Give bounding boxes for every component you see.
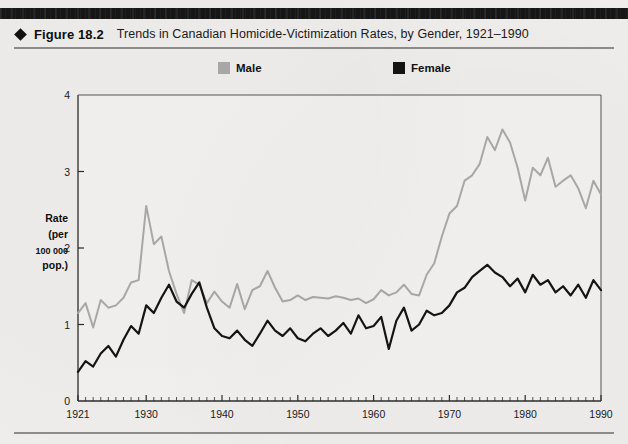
x-tick-label: 1960: [362, 408, 386, 420]
figure-divider-bottom: [14, 432, 614, 434]
y-axis-title-line: (per: [48, 228, 68, 240]
y-tick-label: 1: [64, 319, 70, 331]
y-tick-label: 0: [64, 395, 70, 407]
y-tick-label: 3: [64, 166, 70, 178]
y-axis-title-line: pop.): [42, 259, 68, 271]
y-axis-title-line: Rate: [45, 212, 68, 224]
x-tick-label: 1980: [514, 408, 538, 420]
x-tick-label: 1970: [438, 408, 462, 420]
x-tick-label: 1940: [210, 408, 234, 420]
line-chart: 01234Rate(per100 000pop.)192119301940195…: [0, 0, 628, 444]
x-tick-label: 1930: [135, 408, 159, 420]
x-tick-label: 1921: [66, 408, 90, 420]
y-tick-label: 4: [64, 89, 70, 101]
y-axis-title-line: 100 000: [35, 246, 68, 256]
x-tick-label: 1990: [589, 408, 613, 420]
figure-page: Figure 18.2 Trends in Canadian Homicide-…: [0, 0, 628, 444]
x-tick-label: 1950: [286, 408, 310, 420]
plot-area: 01234Rate(per100 000pop.)192119301940195…: [0, 0, 628, 444]
plot-background: [78, 95, 601, 401]
